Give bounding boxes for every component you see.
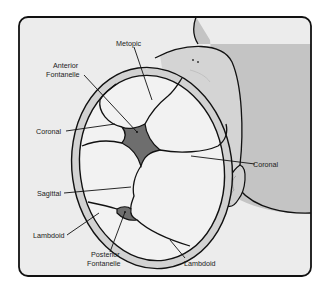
label-lambdoid-left: Lambdoid: [33, 231, 65, 240]
label-anterior-fontanelle-line1: Anterior: [53, 61, 79, 70]
label-posterior-fontanelle-line2: Fontanelle: [87, 259, 121, 268]
eye-icon: [197, 61, 199, 63]
label-metopic: Metopic: [116, 39, 142, 48]
label-anterior-fontanelle-line2: Fontanelle: [46, 70, 80, 79]
label-coronal-right: Coronal: [253, 160, 279, 169]
label-coronal-left: Coronal: [36, 127, 62, 136]
label-lambdoid-right: Lambdoid: [184, 259, 216, 268]
label-sagittal: Sagittal: [37, 189, 61, 198]
skull-diagram: Metopic Anterior Fontanelle Coronal Coro…: [0, 0, 328, 291]
label-posterior-fontanelle-line1: Posterior: [91, 250, 120, 259]
eye-icon: [192, 59, 194, 61]
